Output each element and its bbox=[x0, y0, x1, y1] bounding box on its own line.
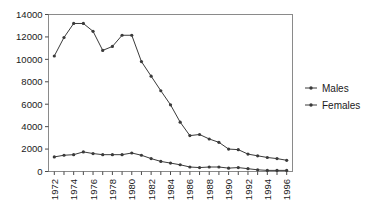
y-axis-tick-label: 2000 bbox=[21, 143, 42, 154]
data-point bbox=[140, 60, 143, 63]
legend-swatch-marker bbox=[309, 103, 312, 106]
x-axis-tick-label: 1976 bbox=[88, 179, 99, 200]
data-point bbox=[179, 121, 182, 124]
plot-frame bbox=[49, 15, 293, 172]
data-point bbox=[120, 34, 123, 37]
x-axis-tick-label: 1972 bbox=[49, 179, 60, 200]
chart-container: 0200040006000800010000120001400019721974… bbox=[0, 0, 371, 216]
data-point bbox=[150, 75, 153, 78]
legend-item-males[interactable]: Males bbox=[305, 83, 349, 94]
data-point bbox=[227, 147, 230, 150]
data-point bbox=[275, 169, 278, 172]
data-point bbox=[179, 163, 182, 166]
data-point bbox=[130, 34, 133, 37]
data-point bbox=[101, 49, 104, 52]
data-point bbox=[82, 150, 85, 153]
x-axis-tick-label: 1978 bbox=[107, 179, 118, 200]
data-point bbox=[256, 154, 259, 157]
legend-item-females[interactable]: Females bbox=[305, 100, 360, 111]
data-point bbox=[159, 160, 162, 163]
data-point bbox=[237, 166, 240, 169]
x-axis-tick-label: 1990 bbox=[223, 179, 234, 200]
data-point bbox=[285, 169, 288, 172]
data-point bbox=[91, 152, 94, 155]
line-chart: 0200040006000800010000120001400019721974… bbox=[0, 0, 371, 216]
data-point bbox=[246, 167, 249, 170]
data-point bbox=[256, 168, 259, 171]
legend-swatch-marker bbox=[309, 86, 312, 89]
x-axis-tick-label: 1994 bbox=[262, 179, 273, 200]
x-axis-tick-label: 1974 bbox=[68, 179, 79, 200]
x-axis-tick-label: 1984 bbox=[165, 179, 176, 200]
data-point bbox=[198, 166, 201, 169]
x-axis-tick-label: 1980 bbox=[126, 179, 137, 200]
x-axis-tick-label: 1996 bbox=[281, 179, 292, 200]
x-axis-tick-label: 1992 bbox=[243, 179, 254, 200]
data-point bbox=[198, 133, 201, 136]
data-point bbox=[101, 153, 104, 156]
data-point bbox=[150, 157, 153, 160]
y-axis-tick-label: 4000 bbox=[21, 121, 42, 132]
data-point bbox=[140, 154, 143, 157]
data-point bbox=[227, 167, 230, 170]
data-point bbox=[217, 165, 220, 168]
data-point bbox=[246, 153, 249, 156]
data-point bbox=[82, 22, 85, 25]
y-axis-tick-label: 0 bbox=[37, 166, 42, 177]
data-point bbox=[188, 134, 191, 137]
data-point bbox=[53, 155, 56, 158]
legend-label: Males bbox=[322, 83, 349, 94]
data-point bbox=[111, 153, 114, 156]
data-point bbox=[62, 36, 65, 39]
data-point bbox=[72, 153, 75, 156]
data-point bbox=[91, 30, 94, 33]
x-axis-tick-label: 1988 bbox=[204, 179, 215, 200]
y-axis-tick-label: 8000 bbox=[21, 76, 42, 87]
data-point bbox=[208, 165, 211, 168]
y-axis-tick-label: 12000 bbox=[16, 31, 42, 42]
x-axis-tick-label: 1982 bbox=[146, 179, 157, 200]
data-point bbox=[169, 161, 172, 164]
data-point bbox=[62, 154, 65, 157]
data-point bbox=[275, 157, 278, 160]
data-point bbox=[217, 141, 220, 144]
data-point bbox=[120, 153, 123, 156]
data-point bbox=[285, 159, 288, 162]
data-point bbox=[111, 45, 114, 48]
y-axis-tick-label: 6000 bbox=[21, 99, 42, 110]
data-point bbox=[266, 169, 269, 172]
data-point bbox=[266, 156, 269, 159]
data-point bbox=[188, 165, 191, 168]
y-axis-tick-label: 14000 bbox=[16, 9, 42, 20]
x-axis-tick-label: 1986 bbox=[184, 179, 195, 200]
data-point bbox=[169, 103, 172, 106]
data-point bbox=[130, 151, 133, 154]
legend-label: Females bbox=[322, 100, 360, 111]
y-axis-tick-label: 10000 bbox=[16, 54, 42, 65]
data-point bbox=[53, 54, 56, 57]
data-point bbox=[72, 22, 75, 25]
data-point bbox=[237, 148, 240, 151]
data-point bbox=[208, 137, 211, 140]
data-point bbox=[159, 89, 162, 92]
